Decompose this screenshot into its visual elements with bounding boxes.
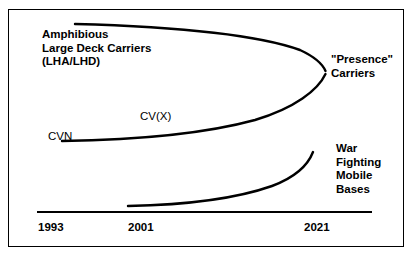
label-cvx: CV(X) xyxy=(140,110,171,124)
label-war-fighting-mobile-bases: War Fighting Mobile Bases xyxy=(336,142,381,196)
axis-tick-label-2001: 2001 xyxy=(128,221,154,233)
axis-tick-label-1993: 1993 xyxy=(38,221,64,233)
figure-canvas: Amphibious Large Deck Carriers (LHA/LHD)… xyxy=(0,0,413,258)
label-amphibious-large-deck-carriers: Amphibious Large Deck Carriers (LHA/LHD) xyxy=(42,28,151,69)
axis-tick-label-2021: 2021 xyxy=(304,221,330,233)
lower-branch-curve xyxy=(62,74,326,141)
label-cvn: CVN xyxy=(48,130,72,144)
label-presence-carriers: "Presence" Carriers xyxy=(331,53,393,80)
mobile-bases-curve xyxy=(128,152,313,206)
